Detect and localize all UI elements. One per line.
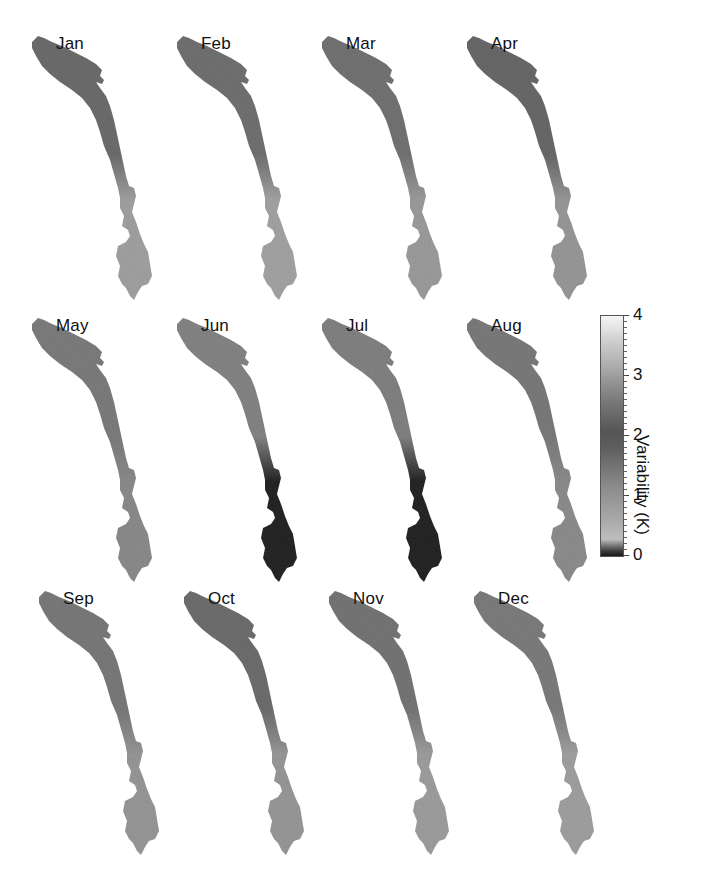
- month-panel-oct: Oct: [182, 585, 327, 870]
- month-panel-jan: Jan: [30, 30, 175, 315]
- colorbar-minor-tick: [624, 531, 627, 532]
- colorbar-minor-tick: [624, 453, 627, 454]
- map-shape: [320, 312, 465, 597]
- month-label: Aug: [491, 316, 522, 336]
- month-panel-jul: Jul: [320, 312, 465, 597]
- map-shape: [320, 30, 465, 315]
- colorbar-minor-tick: [624, 393, 627, 394]
- colorbar-minor-tick: [624, 465, 627, 466]
- month-label: May: [56, 316, 89, 336]
- map-shape: [465, 312, 610, 597]
- colorbar-tick-label: 4: [633, 305, 642, 325]
- colorbar-minor-tick: [624, 369, 627, 370]
- map-shape: [465, 30, 610, 315]
- month-label: Jul: [346, 316, 368, 336]
- map-shape: [175, 30, 320, 315]
- colorbar-minor-tick: [624, 501, 627, 502]
- colorbar-minor-tick: [624, 507, 627, 508]
- month-label: Oct: [208, 589, 235, 609]
- colorbar-minor-tick: [624, 405, 627, 406]
- colorbar-minor-tick: [624, 519, 627, 520]
- colorbar-minor-tick: [624, 351, 627, 352]
- colorbar-title: Variability (K): [632, 435, 652, 535]
- month-panel-mar: Mar: [320, 30, 465, 315]
- month-label: Sep: [63, 589, 94, 609]
- colorbar-minor-tick: [624, 327, 627, 328]
- colorbar-major-tick: [624, 495, 629, 496]
- colorbar-minor-tick: [624, 537, 627, 538]
- colorbar-minor-tick: [624, 423, 627, 424]
- colorbar-minor-tick: [624, 339, 627, 340]
- month-label: Dec: [498, 589, 529, 609]
- colorbar-minor-tick: [624, 471, 627, 472]
- colorbar-minor-tick: [624, 489, 627, 490]
- map-shape: [182, 585, 327, 870]
- colorbar-minor-tick: [624, 363, 627, 364]
- map-shape: [30, 312, 175, 597]
- map-shape: [175, 312, 320, 597]
- month-label: Mar: [346, 34, 376, 54]
- colorbar-minor-tick: [624, 549, 627, 550]
- colorbar-major-tick: [624, 555, 629, 556]
- colorbar-minor-tick: [624, 345, 627, 346]
- map-shape: [37, 585, 182, 870]
- month-panel-feb: Feb: [175, 30, 320, 315]
- colorbar-minor-tick: [624, 411, 627, 412]
- map-shape: [472, 585, 617, 870]
- colorbar-minor-tick: [624, 429, 627, 430]
- colorbar-minor-tick: [624, 441, 627, 442]
- colorbar-minor-tick: [624, 477, 627, 478]
- colorbar-major-tick: [624, 375, 629, 376]
- colorbar-major-tick: [624, 435, 629, 436]
- colorbar-minor-tick: [624, 381, 627, 382]
- month-panel-jun: Jun: [175, 312, 320, 597]
- colorbar-minor-tick: [624, 525, 627, 526]
- month-panel-nov: Nov: [327, 585, 472, 870]
- colorbar-minor-tick: [624, 459, 627, 460]
- month-panel-may: May: [30, 312, 175, 597]
- colorbar-minor-tick: [624, 321, 627, 322]
- map-shape: [327, 585, 472, 870]
- month-label: Jan: [56, 34, 84, 54]
- month-label: Apr: [491, 34, 518, 54]
- colorbar-minor-tick: [624, 483, 627, 484]
- colorbar-minor-tick: [624, 543, 627, 544]
- colorbar-minor-tick: [624, 387, 627, 388]
- colorbar-major-tick: [624, 315, 629, 316]
- colorbar-minor-tick: [624, 417, 627, 418]
- colorbar-minor-tick: [624, 333, 627, 334]
- month-panel-dec: Dec: [472, 585, 617, 870]
- month-label: Jun: [201, 316, 229, 336]
- month-panel-sep: Sep: [37, 585, 182, 870]
- colorbar-tick-label: 3: [633, 365, 642, 385]
- colorbar-minor-tick: [624, 513, 627, 514]
- map-shape: [30, 30, 175, 315]
- colorbar-minor-tick: [624, 357, 627, 358]
- colorbar-tick-label: 0: [633, 545, 642, 565]
- month-panel-apr: Apr: [465, 30, 610, 315]
- colorbar-minor-tick: [624, 399, 627, 400]
- colorbar: [600, 315, 624, 557]
- month-label: Feb: [201, 34, 231, 54]
- month-label: Nov: [353, 589, 384, 609]
- month-panel-aug: Aug: [465, 312, 610, 597]
- colorbar-minor-tick: [624, 447, 627, 448]
